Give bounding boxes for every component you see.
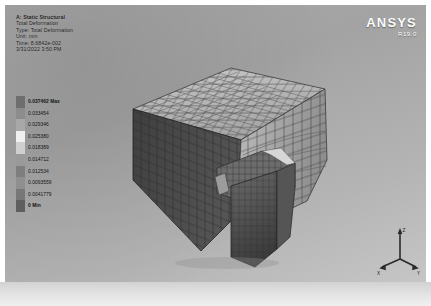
legend-row[interactable]: 0.037462 Max xyxy=(16,96,60,108)
legend-color-swatch xyxy=(16,142,25,154)
x-axis-arrow xyxy=(379,265,386,271)
viewport-bottom-band xyxy=(0,282,431,306)
z-axis-label: Z xyxy=(403,228,406,233)
legend-row[interactable]: 0.0041779 xyxy=(16,189,60,201)
legend-row[interactable]: 0.012534 xyxy=(16,166,60,178)
legend-color-swatch xyxy=(16,108,25,120)
legend-value-label: 0.0093559 xyxy=(28,180,52,186)
legend-row[interactable]: 0.0093559 xyxy=(16,177,60,189)
legend-color-swatch xyxy=(16,166,25,178)
legend-value-label: 0.025380 xyxy=(28,134,49,140)
y-axis-arrow xyxy=(412,265,419,271)
ansys-results-screenshot: A: Static Structural Total Deformation T… xyxy=(0,0,431,306)
ansys-release-text: R19.0 xyxy=(366,30,417,38)
legend-row[interactable]: 0.029346 xyxy=(16,119,60,131)
legend-color-swatch xyxy=(16,131,25,143)
coordinate-triad[interactable]: Z X Y xyxy=(376,225,422,277)
legend-row[interactable]: 0.014712 xyxy=(16,154,60,166)
legend-color-swatch xyxy=(16,154,25,166)
ansys-brand-text: ANSYS xyxy=(366,16,417,29)
legend-value-label: 0 Min xyxy=(28,203,41,209)
legend-color-swatch xyxy=(16,96,25,108)
legend-color-swatch xyxy=(16,189,25,201)
ansys-logo: ANSYS R19.0 xyxy=(366,16,417,38)
legend-value-label: 0.014712 xyxy=(28,157,49,163)
x-axis-label: X xyxy=(377,271,380,276)
graphics-viewport[interactable]: A: Static Structural Total Deformation T… xyxy=(5,5,426,283)
legend-value-label: 0.0041779 xyxy=(28,192,52,198)
legend-color-swatch xyxy=(16,119,25,131)
legend-color-swatch xyxy=(16,177,25,189)
legend-value-label: 0.029346 xyxy=(28,122,49,128)
legend-row[interactable]: 0.033454 xyxy=(16,108,60,120)
legend-value-label: 0.012534 xyxy=(28,169,49,175)
legend-row[interactable]: 0 Min xyxy=(16,200,60,212)
legend-row[interactable]: 0.018389 xyxy=(16,142,60,154)
contour-legend[interactable]: 0.037462 Max0.0334540.0293460.0253800.01… xyxy=(16,96,60,212)
legend-color-swatch xyxy=(16,200,25,212)
result-timestamp-label: 3/31/2022 3:50 PM xyxy=(16,46,73,52)
y-axis-label: Y xyxy=(417,271,420,276)
legend-value-label: 0.033454 xyxy=(28,111,49,117)
legend-value-label: 0.037462 Max xyxy=(28,99,60,105)
legend-value-label: 0.018389 xyxy=(28,145,49,151)
result-info-block: A: Static Structural Total Deformation T… xyxy=(16,14,73,52)
legend-row[interactable]: 0.025380 xyxy=(16,131,60,143)
